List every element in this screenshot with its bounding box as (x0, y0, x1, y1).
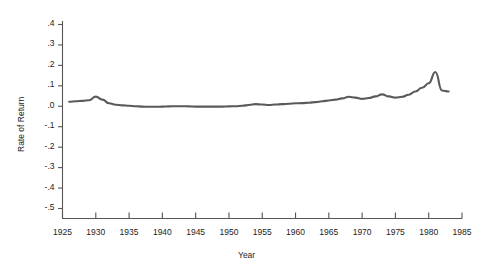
y-axis-tick-label: -.4 (29, 182, 55, 192)
y-axis-title: Rate of Return (16, 97, 26, 152)
y-axis-tick-label: -.2 (29, 141, 55, 151)
y-axis-tick-label: .4 (29, 18, 55, 28)
y-axis-ticks (58, 25, 63, 209)
y-axis-tick-label: -.5 (29, 202, 55, 212)
y-axis-tick-label: -.1 (29, 120, 55, 130)
y-axis-tick-label: -.3 (29, 161, 55, 171)
x-axis-title: Year (238, 250, 255, 260)
y-axis-tick-label: .3 (29, 38, 55, 48)
x-axis-ticks (63, 213, 463, 219)
y-axis-tick-label: .2 (29, 59, 55, 69)
y-axis-tick-label: .0 (29, 100, 55, 110)
chart-axes (62, 21, 462, 219)
x-axis-tick-label: 1985 (442, 227, 482, 237)
y-axis-tick-label: .1 (29, 79, 55, 89)
data-series-line (69, 72, 449, 107)
rate-of-return-line-chart: .4.3.2.1.0-.1-.2-.3-.4-.5 19251930193519… (0, 0, 489, 269)
